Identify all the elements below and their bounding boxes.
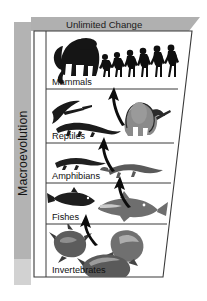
macroevolution-axis-label: Macroevolution [16, 111, 30, 196]
banner-label: Unlimited Change [66, 19, 142, 30]
macroevolution-axis: Macroevolution [14, 22, 31, 285]
macroevolution-figure: Macroevolution Unlimited Change [0, 0, 207, 301]
tier-label-invertebrates: Invertebrates [52, 265, 106, 275]
macroevolution-axis-foot [14, 259, 31, 285]
tier-label-mammals: Mammals [52, 77, 92, 87]
tier-label-fishes: Fishes [52, 212, 79, 222]
unlimited-change-banner: Unlimited Change [31, 17, 200, 31]
tier-label-amphibians: Amphibians [52, 171, 100, 181]
tier-label-reptiles: Reptiles [52, 131, 86, 141]
